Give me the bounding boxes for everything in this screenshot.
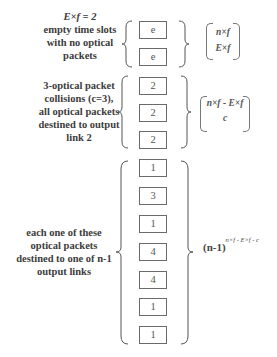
packet-slot: 2 [139, 131, 167, 149]
packet-slot: e [139, 21, 167, 39]
group2-right-brace [180, 75, 192, 149]
group3-label-line4: output links [8, 265, 120, 278]
group3-label-line1: each one of these [8, 226, 120, 239]
power-base: (n-1) [203, 241, 226, 253]
packet-slot: 1 [139, 215, 167, 233]
binomial-top: n×f - E×f [200, 98, 250, 108]
binomial-bottom: c [200, 113, 250, 123]
packet-slot: 1 [139, 326, 167, 344]
group2-left-brace [117, 75, 129, 149]
power-exponent: n×f - E×f - c [226, 236, 259, 243]
group3-left-brace [115, 160, 129, 345]
packet-slot: 4 [139, 271, 167, 289]
packet-slot: 2 [139, 77, 167, 95]
group3-right-brace [180, 160, 194, 345]
group1-binomial: n×f E×f [206, 23, 240, 60]
group1-right-brace [178, 20, 190, 68]
group1-left-brace [121, 20, 133, 68]
packet-slot: 2 [139, 104, 167, 122]
group3-power-formula: (n-1)n×f - E×f - c [203, 240, 259, 253]
group3-label-line2: optical packets [8, 239, 120, 252]
packet-slot: 1 [139, 159, 167, 177]
packet-slot: 3 [139, 187, 167, 205]
group2-binomial: n×f - E×f c [200, 96, 250, 132]
packet-slot: e [139, 48, 167, 66]
binomial-bottom: E×f [206, 43, 240, 53]
packet-slot: 4 [139, 243, 167, 261]
packet-slot: 1 [139, 298, 167, 316]
group3-label: each one of these optical packets destin… [8, 226, 120, 278]
group3-label-line3: destined to one of n-1 [8, 252, 120, 265]
binomial-top: n×f [206, 27, 240, 37]
